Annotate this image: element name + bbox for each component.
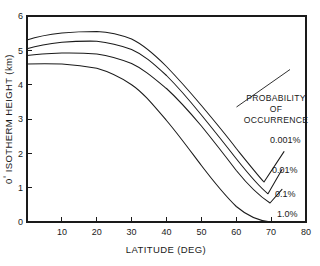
annotation-line-3: OCCURRENCE: [244, 115, 309, 125]
x-tick-label: 80: [301, 227, 311, 237]
series-label-001: 0.01%: [272, 165, 298, 175]
y-tick-label: 1: [18, 183, 23, 193]
chart-canvas: 0 1 2 3 4 5 6 10 20 30 40 50 60 70: [0, 0, 320, 266]
x-tick-label: 50: [196, 227, 206, 237]
y-tick-label: 0: [18, 217, 23, 227]
curve-01-percent: [27, 53, 282, 203]
series-label-10: 1.0%: [277, 209, 298, 219]
annotation-line-2: OF: [270, 104, 283, 114]
annotation-probability-of-occurrence: PROBABILITY OF OCCURRENCE: [244, 93, 309, 125]
curve-10-percent: [27, 64, 271, 222]
y-axis-tick-labels: 0 1 2 3 4 5 6: [18, 11, 23, 227]
annotation-line-1: PROBABILITY: [246, 93, 306, 103]
y-axis-ticks: [27, 16, 32, 222]
series-labels: 0.001% 0.01% 0.1% 1.0%: [270, 135, 301, 219]
y-axis-title: 0° ISOTHERM HEIGHT (km): [3, 54, 14, 184]
x-tick-label: 30: [127, 227, 137, 237]
svg-text:0° ISOTHERM HEIGHT (km): 0° ISOTHERM HEIGHT (km): [3, 54, 14, 184]
x-tick-label: 60: [231, 227, 241, 237]
x-tick-label: 70: [266, 227, 276, 237]
y-tick-label: 4: [18, 80, 23, 90]
x-axis-tick-labels: 10 20 30 40 50 60 70 80: [57, 227, 311, 237]
series-label-0001: 0.001%: [270, 135, 301, 145]
y-tick-label: 6: [18, 11, 23, 21]
y-tick-label: 3: [18, 114, 23, 124]
x-axis-title: LATITUDE (DEG): [126, 244, 206, 255]
data-curves: [27, 32, 284, 223]
y-tick-label: 2: [18, 149, 23, 159]
x-tick-label: 40: [161, 227, 171, 237]
series-label-01: 0.1%: [275, 189, 296, 199]
curve-0001-percent: [27, 32, 284, 183]
y-axis-title-rest: ISOTHERM HEIGHT (km): [3, 54, 14, 175]
x-axis-ticks: [62, 217, 271, 222]
x-tick-label: 10: [57, 227, 67, 237]
isotherm-height-chart: 0 1 2 3 4 5 6 10 20 30 40 50 60 70: [0, 0, 320, 266]
x-tick-label: 20: [92, 227, 102, 237]
y-tick-label: 5: [18, 46, 23, 56]
